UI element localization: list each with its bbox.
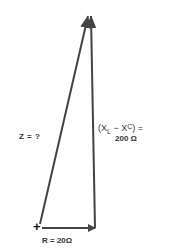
vector-diagram: [0, 0, 177, 252]
reactance-label-minus: − X: [111, 123, 127, 133]
impedance-vector: [40, 16, 88, 224]
reactance-value: 200 Ω: [115, 135, 137, 143]
reactance-vector: [91, 16, 95, 228]
origin-plus-marker: +: [33, 220, 41, 233]
reactance-label-close: ) =: [132, 123, 143, 133]
reactance-label-open: (X: [98, 123, 107, 133]
resistance-label: R = 20Ω: [42, 237, 72, 245]
impedance-label: Z = ?: [19, 133, 40, 141]
